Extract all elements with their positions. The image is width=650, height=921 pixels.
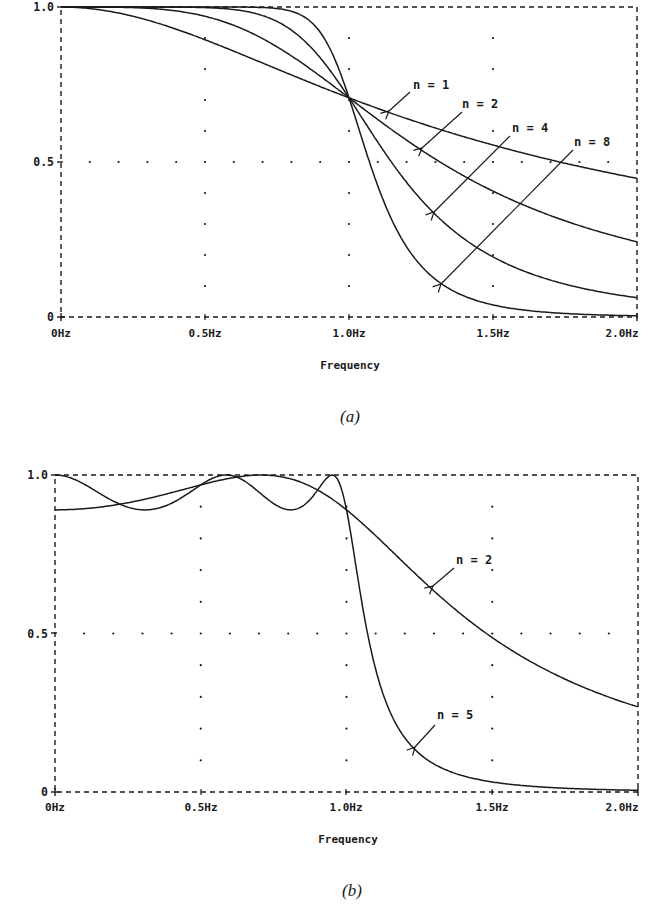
chart-b-caption: (b) xyxy=(342,881,362,900)
chart-a-label-n8: n = 8 xyxy=(574,135,610,149)
chart-b-xtick-0.5: 0.5Hz xyxy=(184,801,217,814)
chart-b-xlabel: Frequency xyxy=(318,833,378,846)
figure: 1.0 0.5 0 0Hz 0.5Hz 1.0Hz 1.5Hz 2.0Hz Fr… xyxy=(0,0,650,921)
chart-b-ytick-1.0: 1.0 xyxy=(27,468,48,482)
chart-b-xtick-0: 0Hz xyxy=(45,801,65,814)
chart-b-grid xyxy=(83,506,610,762)
chart-a-caption: (a) xyxy=(340,407,360,426)
chart-a-ytick-1.0: 1.0 xyxy=(33,0,54,14)
chart-a-ytick-0: 0 xyxy=(47,310,54,324)
chart-a: 1.0 0.5 0 0Hz 0.5Hz 1.0Hz 1.5Hz 2.0Hz Fr… xyxy=(33,0,638,426)
chart-b-arrow-n2 xyxy=(433,568,454,586)
chart-a-xtick-0.5: 0.5Hz xyxy=(188,327,221,340)
chart-b-label-n5: n = 5 xyxy=(437,708,473,722)
chart-a-xlabel: Frequency xyxy=(320,359,380,372)
chart-a-arrow-n1 xyxy=(389,92,410,111)
chart-a-xtick-2.0: 2.0Hz xyxy=(605,327,638,340)
chart-a-ytick-0.5: 0.5 xyxy=(33,155,54,169)
chart-b: 1.0 0.5 0 0Hz 0.5Hz 1.0Hz 1.5Hz 2.0Hz Fr… xyxy=(27,468,638,900)
chart-a-grid xyxy=(89,37,610,287)
chart-a-label-n2: n = 2 xyxy=(462,97,498,111)
chart-b-xtick-1.5: 1.5Hz xyxy=(475,801,508,814)
chart-b-xtick-1.0: 1.0Hz xyxy=(329,801,362,814)
chart-a-curve-n1 xyxy=(61,7,637,178)
chart-a-label-n1: n = 1 xyxy=(413,78,449,92)
chart-b-arrow-n5 xyxy=(415,725,435,747)
chart-a-arrow-n2 xyxy=(422,112,462,148)
chart-a-curve-n2 xyxy=(61,7,637,242)
chart-a-xtick-1.0: 1.0Hz xyxy=(332,327,365,340)
chart-a-xtick-0: 0Hz xyxy=(51,327,71,340)
chart-b-ytick-0: 0 xyxy=(41,785,48,799)
chart-a-arrow-n4 xyxy=(434,136,510,212)
chart-a-label-n4: n = 4 xyxy=(512,121,548,135)
chart-a-xtick-1.5: 1.5Hz xyxy=(476,327,509,340)
chart-b-xtick-2.0: 2.0Hz xyxy=(605,801,638,814)
chart-b-ytick-0.5: 0.5 xyxy=(27,627,48,641)
chart-b-label-n2: n = 2 xyxy=(456,553,492,567)
